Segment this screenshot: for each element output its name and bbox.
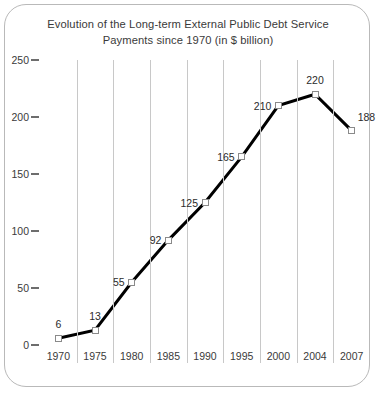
data-point-marker <box>312 91 319 98</box>
y-tick-dash <box>31 344 39 346</box>
data-point-label: 188 <box>358 111 376 123</box>
data-point-label: 55 <box>113 276 125 288</box>
category-separator <box>150 60 151 345</box>
x-axis-separator <box>260 345 261 363</box>
y-tick-dash <box>31 173 39 175</box>
data-point-label: 92 <box>150 234 162 246</box>
data-point-marker <box>128 279 135 286</box>
y-tick-dash <box>31 287 39 289</box>
x-axis-label: 1975 <box>83 350 106 362</box>
x-axis-label: 1995 <box>230 350 253 362</box>
chart-title: Evolution of the Long-term External Publ… <box>24 16 352 48</box>
y-tick-label: 200 <box>11 111 29 123</box>
y-tick-dash <box>31 59 39 61</box>
data-point-label: 210 <box>254 100 272 112</box>
x-axis-label: 2007 <box>340 350 363 362</box>
x-axis-separator <box>297 345 298 363</box>
data-point-marker <box>165 237 172 244</box>
data-point-label: 165 <box>217 151 235 163</box>
chart-title-line-1: Evolution of the Long-term External Publ… <box>24 16 352 32</box>
x-axis: 197019751980198519901995200020042007 <box>40 345 370 371</box>
y-tick-label: 250 <box>11 54 29 66</box>
y-tick-label: 150 <box>11 168 29 180</box>
data-point-marker <box>348 127 355 134</box>
data-point-marker <box>92 327 99 334</box>
y-tick-dash <box>31 230 39 232</box>
x-axis-separator <box>150 345 151 363</box>
x-axis-separator <box>187 345 188 363</box>
x-axis-label: 1980 <box>120 350 143 362</box>
x-axis-label: 1990 <box>193 350 216 362</box>
data-point-label: 220 <box>306 74 324 86</box>
category-separator <box>333 60 334 345</box>
y-tick-label: 0 <box>23 339 29 351</box>
plot-area: 0501001502002506135592125165210220188 <box>40 60 370 345</box>
data-point-marker <box>238 153 245 160</box>
category-separator <box>223 60 224 345</box>
x-axis-label: 1985 <box>157 350 180 362</box>
chart-card: Evolution of the Long-term External Publ… <box>0 0 376 395</box>
data-point-marker <box>202 199 209 206</box>
data-point-marker <box>275 102 282 109</box>
x-axis-separator <box>77 345 78 363</box>
x-axis-label: 2004 <box>303 350 326 362</box>
chart-title-line-2: Payments since 1970 (in $ billion) <box>24 32 352 48</box>
x-axis-label: 1970 <box>47 350 70 362</box>
data-point-label: 13 <box>89 310 101 322</box>
y-tick-label: 50 <box>17 282 29 294</box>
category-separator <box>297 60 298 345</box>
x-axis-separator <box>223 345 224 363</box>
y-tick-dash <box>31 116 39 118</box>
data-point-marker <box>55 335 62 342</box>
data-point-label: 6 <box>55 318 61 330</box>
x-axis-separator <box>113 345 114 363</box>
category-separator <box>113 60 114 345</box>
x-axis-separator <box>333 345 334 363</box>
category-separator <box>77 60 78 345</box>
y-tick-label: 100 <box>11 225 29 237</box>
x-axis-label: 2000 <box>267 350 290 362</box>
data-point-label: 125 <box>180 197 198 209</box>
